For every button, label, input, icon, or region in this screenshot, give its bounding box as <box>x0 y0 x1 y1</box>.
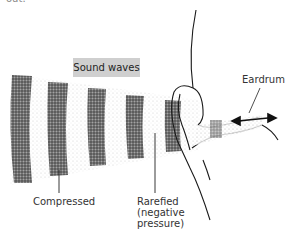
eardrum-leader <box>249 88 260 113</box>
eardrum-label: Eardrum <box>242 74 285 85</box>
sound-wave-diagram: out. <box>0 0 296 239</box>
rarefied-label: Rarefied (negative pressure) <box>137 196 185 229</box>
sound-waves-title: Sound waves <box>73 58 140 77</box>
compressed-label: Compressed <box>33 196 95 207</box>
